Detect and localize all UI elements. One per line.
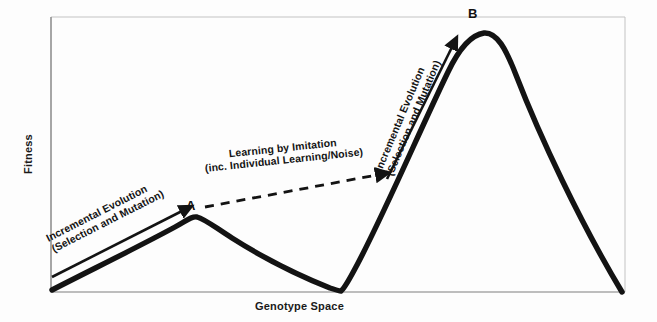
fitness-curve: [52, 33, 622, 292]
point-label-a: A: [186, 198, 195, 213]
point-label-b: B: [468, 6, 477, 21]
fitness-landscape-figure: Fitness Genotype Space A B Incremental E…: [0, 0, 657, 322]
y-axis-label: Fitness: [22, 122, 34, 186]
learning-by-imitation-arrow: [205, 174, 382, 207]
x-axis-label: Genotype Space: [255, 300, 344, 312]
